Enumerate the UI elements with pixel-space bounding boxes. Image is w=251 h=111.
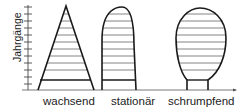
pyramid-schrumpfend bbox=[170, 8, 232, 90]
label-stationaer: stationär bbox=[111, 95, 155, 107]
y-axis-label: Jahrgänge bbox=[11, 12, 23, 62]
pyramid-stationaer bbox=[100, 7, 140, 90]
pyramid-wachsend bbox=[30, 6, 100, 90]
y-axis bbox=[24, 5, 32, 90]
label-wachsend: wachsend bbox=[43, 95, 95, 107]
x-axis bbox=[22, 89, 237, 92]
label-schrumpfend: schrumpfend bbox=[168, 95, 234, 107]
